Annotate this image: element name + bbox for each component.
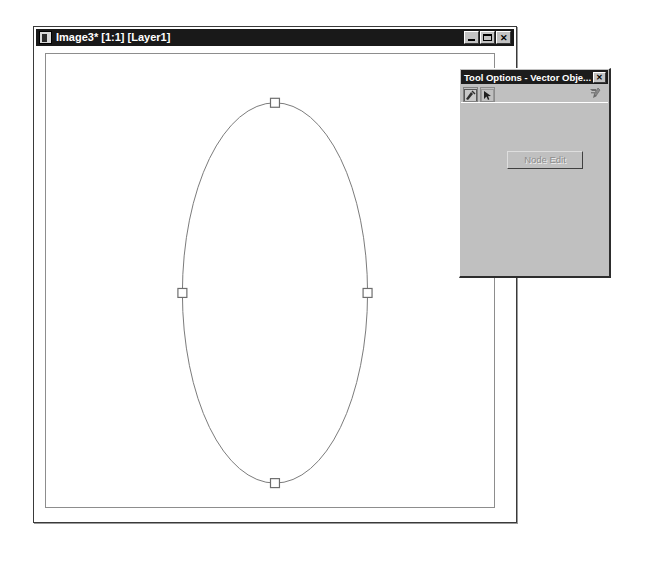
tool-options-titlebar[interactable]: Tool Options - Vector Obje... ✕ [461,70,608,84]
handle-top[interactable] [270,98,279,107]
maximize-button[interactable] [480,31,495,44]
maximize-icon [483,34,492,41]
handle-left[interactable] [178,288,187,297]
image-document-window[interactable]: Image3* [1:1] [Layer1] ✕ [33,26,517,523]
image-window-title: Image3* [1:1] [Layer1] [56,31,464,44]
node-edit-button[interactable]: Node Edit [507,151,583,169]
close-icon: ✕ [497,32,510,43]
vector-drawing-surface[interactable] [46,54,494,507]
tool-options-window[interactable]: Tool Options - Vector Obje... ✕ [459,68,611,278]
image-window-titlebar[interactable]: Image3* [1:1] [Layer1] ✕ [36,29,514,46]
close-icon: ✕ [596,73,603,82]
tool-options-close-button[interactable]: ✕ [593,72,606,83]
minimize-button[interactable] [464,31,479,44]
image-document-icon [39,31,52,44]
minimize-icon [468,39,475,41]
ellipse-shape[interactable] [182,103,367,483]
tool-options-body: Node Edit [461,104,608,274]
handle-bottom[interactable] [270,479,279,488]
tool-options-toolbar[interactable] [461,85,608,103]
handle-right[interactable] [363,288,372,297]
node-pointer-icon[interactable] [480,87,495,102]
close-button[interactable]: ✕ [496,31,511,44]
vector-object-icon[interactable] [463,87,478,102]
whats-this-help-icon[interactable] [587,87,604,102]
window-controls: ✕ [464,31,511,44]
selection-handles[interactable] [178,98,372,487]
tool-options-title: Tool Options - Vector Obje... [464,72,593,83]
image-canvas[interactable] [45,53,495,508]
